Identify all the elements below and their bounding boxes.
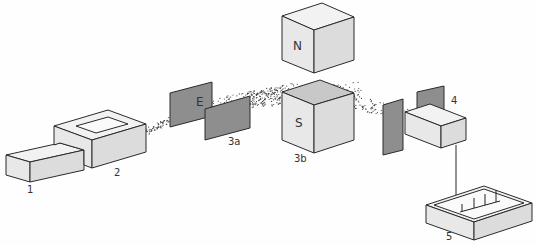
beam-particle <box>229 99 230 100</box>
beam-particle <box>252 102 253 103</box>
beam-particle <box>360 90 361 91</box>
beam-particle <box>270 91 271 92</box>
beam-particle <box>262 91 263 92</box>
beam-particle <box>243 96 244 97</box>
beam-particle <box>262 97 263 98</box>
beam-particle <box>276 102 277 103</box>
beam-particle <box>148 127 149 128</box>
beam-particle <box>407 109 408 110</box>
beam-particle <box>260 99 261 100</box>
beam-particle <box>271 98 272 99</box>
beam-particle <box>266 88 267 89</box>
beam-particle <box>267 90 268 91</box>
beam-particle <box>367 111 368 112</box>
beam-particle <box>268 94 269 95</box>
beam-particle <box>375 104 376 105</box>
beam-particle <box>371 101 372 102</box>
beam-particle <box>383 102 384 103</box>
beam-particle <box>277 91 278 92</box>
beam-particle <box>213 103 214 104</box>
beam-particle <box>149 132 150 133</box>
label-north: N <box>293 39 302 53</box>
beam-particle <box>276 96 277 97</box>
beam-particle <box>265 93 266 94</box>
beam-particle <box>270 96 271 97</box>
beam-particle <box>259 92 260 93</box>
beam-particle <box>265 104 266 105</box>
beam-particle <box>153 126 154 127</box>
beam-particle <box>282 85 283 86</box>
beam-particle <box>281 90 282 91</box>
beam-particle <box>250 91 251 92</box>
label-2: 2 <box>114 167 120 178</box>
beam-particle <box>356 99 357 100</box>
beam-particle <box>254 102 255 103</box>
beam-particle <box>262 104 263 105</box>
diagram-canvas: 1 2 E 3a 3b N S 4 5 <box>0 0 536 245</box>
beam-particle <box>247 93 248 94</box>
beam-particle <box>264 99 265 100</box>
beam-particle <box>380 113 381 114</box>
beam-particle <box>261 94 262 95</box>
beam-particle <box>374 105 375 106</box>
beam-particle <box>286 86 287 87</box>
label-1: 1 <box>27 184 33 195</box>
beam-particle <box>257 93 258 94</box>
beam-particle <box>167 120 168 121</box>
beam-particle <box>361 106 362 107</box>
beam-particle <box>261 91 262 92</box>
beam-particle <box>371 108 372 109</box>
beam-particle <box>260 103 261 104</box>
beam-particle <box>160 121 161 122</box>
beam-particle <box>262 101 263 102</box>
beam-particle <box>273 99 274 100</box>
beam-particle <box>380 102 381 103</box>
beam-particle <box>253 101 254 102</box>
beam-particle <box>239 93 240 94</box>
beam-particle <box>263 100 264 101</box>
beam-particle <box>154 130 155 131</box>
beam-particle <box>253 99 254 100</box>
beam-particle <box>282 89 283 90</box>
beam-particle <box>358 91 359 92</box>
beam-particle <box>361 98 362 99</box>
beam-particle <box>224 98 225 99</box>
beam-particle <box>263 92 264 93</box>
beam-particle <box>253 92 254 93</box>
beam-particle <box>168 121 169 122</box>
beam-particle <box>248 93 249 94</box>
beam-particle <box>377 112 378 113</box>
label-south: S <box>295 116 303 130</box>
beam-particle <box>213 101 214 102</box>
beam-particle <box>359 105 360 106</box>
beam-particle <box>358 94 359 95</box>
beam-particle <box>255 104 256 105</box>
beam-particle <box>230 96 231 97</box>
beam-particle <box>160 127 161 128</box>
beam-particle <box>358 88 359 89</box>
beam-particle <box>355 105 356 106</box>
beam-particle <box>227 95 228 96</box>
beam-particle <box>275 98 276 99</box>
beam-particle <box>247 94 248 95</box>
beam-particle <box>272 90 273 91</box>
beam-particle <box>226 100 227 101</box>
beam-particle <box>261 102 262 103</box>
beam-particle <box>242 93 243 94</box>
beam-particle <box>370 99 371 100</box>
beam-particle <box>273 104 274 105</box>
magnet-south <box>282 80 354 153</box>
beam-particle <box>264 98 265 99</box>
beam-particle <box>226 97 227 98</box>
beam-particle <box>280 87 281 88</box>
beam-particle <box>280 88 281 89</box>
beam-particle <box>274 94 275 95</box>
beam-particle <box>262 93 263 94</box>
beam-particle <box>343 87 344 88</box>
beam-particle <box>355 108 356 109</box>
beam-particle <box>151 131 152 132</box>
beam-particle <box>270 98 271 99</box>
beam-particle <box>381 110 382 111</box>
beam-particle <box>271 94 272 95</box>
beam-particle <box>253 104 254 105</box>
